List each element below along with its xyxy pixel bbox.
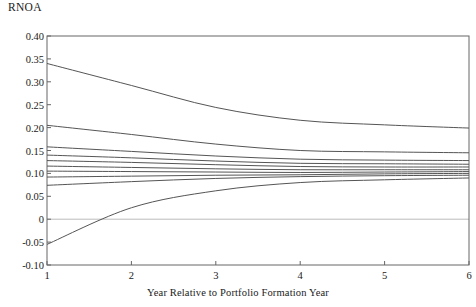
series-line-portfolio-4 [47,171,469,172]
series-line-portfolio-10 [47,63,469,128]
x-axis-tick-label: 2 [129,270,134,281]
rnoa-line-chart: RNOA 0.400.350.300.250.200.150.100.050-0… [0,0,476,307]
plot-area [0,0,476,307]
series-line-portfolio-8 [47,147,469,161]
series-line-portfolio-1 [47,178,469,244]
x-axis-title: Year Relative to Portfolio Formation Yea… [0,287,476,298]
x-axis-tick-label: 4 [298,270,303,281]
x-axis-tick-label: 1 [44,270,49,281]
series-line-portfolio-9 [47,125,469,152]
series-line-portfolio-7 [47,155,469,164]
x-axis-tick-label: 6 [466,270,471,281]
x-axis-tick-label: 5 [382,270,387,281]
x-axis-tick-label: 3 [213,270,218,281]
